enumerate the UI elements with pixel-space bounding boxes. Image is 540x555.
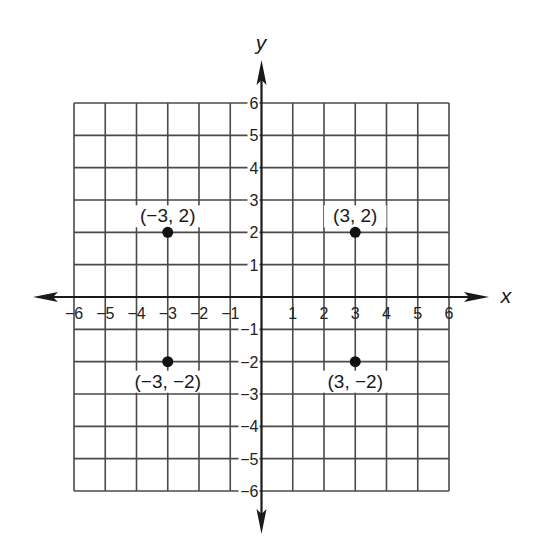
y-tick-label: −3 (240, 386, 258, 403)
point-dot-icon (350, 227, 361, 238)
point-dot-icon (162, 227, 173, 238)
x-tick-label: −1 (221, 305, 239, 322)
point-label: (−3, −2) (134, 371, 201, 392)
y-tick-label: 2 (250, 224, 259, 241)
y-tick-label: 5 (250, 127, 259, 144)
y-axis-title: y (254, 31, 268, 54)
x-axis-title: x (500, 284, 513, 307)
x-tick-label: 4 (382, 305, 391, 322)
x-tick-label: 5 (413, 305, 422, 322)
y-tick-label: −5 (240, 451, 258, 468)
y-tick-label: −4 (240, 418, 258, 435)
x-tick-label: −6 (65, 305, 83, 322)
y-tick-label: 3 (250, 192, 259, 209)
point-label: (−3, 2) (140, 205, 195, 226)
point-label: (3, −2) (328, 371, 383, 392)
x-tick-label: 6 (445, 305, 454, 322)
point-dot-icon (350, 356, 361, 367)
axes (33, 60, 489, 534)
x-tick-label: −4 (127, 305, 145, 322)
x-tick-label: −5 (96, 305, 114, 322)
y-tick-label: −6 (240, 483, 258, 500)
y-tick-label: 4 (250, 160, 259, 177)
x-tick-label: 1 (288, 305, 297, 322)
point-dot-icon (162, 356, 173, 367)
x-tick-label: −2 (190, 305, 208, 322)
y-tick-label: 1 (250, 257, 259, 274)
coordinate-plane: −6−5−4−3−2−1123456−6−5−4−3−2−1123456 (−3… (0, 0, 540, 555)
x-tick-label: −3 (159, 305, 177, 322)
x-tick-label: 3 (351, 305, 360, 322)
y-tick-label: 6 (250, 95, 259, 112)
point-label: (3, 2) (333, 205, 377, 226)
x-tick-label: 2 (320, 305, 329, 322)
y-tick-label: −2 (240, 354, 258, 371)
y-tick-label: −1 (240, 321, 258, 338)
